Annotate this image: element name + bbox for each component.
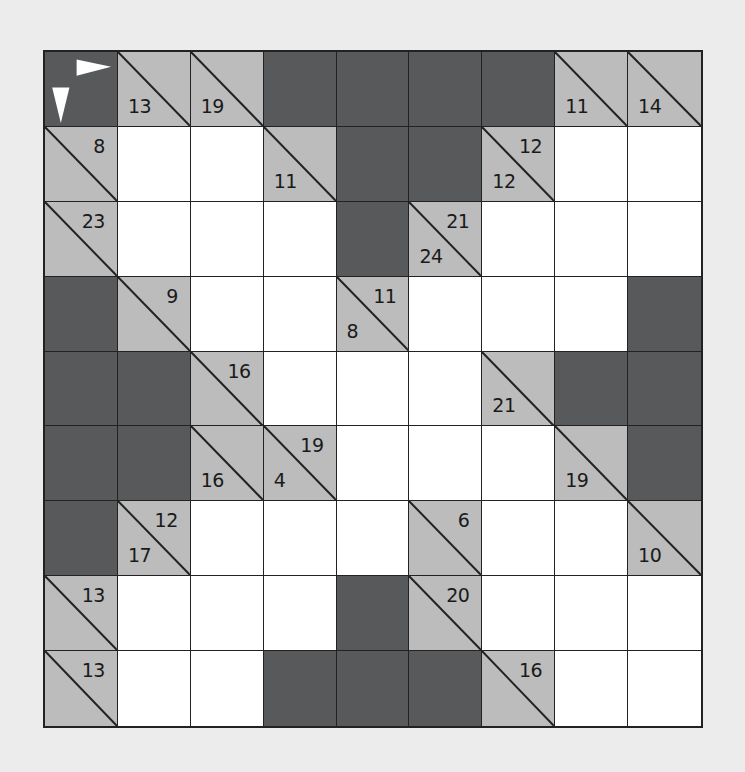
- entry-value: [482, 202, 554, 276]
- entry-cell[interactable]: [191, 277, 264, 352]
- entry-value: [264, 501, 336, 575]
- entry-cell[interactable]: [191, 127, 264, 202]
- entry-value: [555, 501, 627, 575]
- entry-cell[interactable]: [482, 501, 555, 576]
- clue-cell: 16: [191, 426, 264, 501]
- entry-cell[interactable]: [482, 202, 555, 277]
- entry-cell[interactable]: [337, 426, 410, 501]
- entry-cell[interactable]: [118, 576, 191, 651]
- block-cell: [628, 426, 701, 501]
- block-cell: [45, 277, 118, 352]
- across-clue-sum: 23: [82, 212, 105, 231]
- entry-value: [191, 277, 263, 351]
- block-cell: [337, 202, 410, 277]
- entry-cell[interactable]: [264, 352, 337, 427]
- across-clue-sum: 21: [446, 212, 469, 231]
- block-cell: [628, 352, 701, 427]
- diagonal-divider: [118, 277, 190, 351]
- clue-cell: 8: [45, 127, 118, 202]
- entry-value: [628, 127, 701, 201]
- entry-value: [191, 127, 263, 201]
- entry-value: [628, 202, 701, 276]
- across-clue-sum: 13: [82, 586, 105, 605]
- entry-cell[interactable]: [555, 127, 628, 202]
- entry-value: [264, 202, 336, 276]
- clue-cell: 13: [45, 576, 118, 651]
- entry-value: [118, 576, 190, 650]
- entry-cell[interactable]: [409, 352, 482, 427]
- kakuro-board: 1319111481112122321249118162116194191217…: [43, 50, 703, 728]
- block-cell: [264, 651, 337, 726]
- entry-cell[interactable]: [191, 651, 264, 726]
- entry-cell[interactable]: [264, 202, 337, 277]
- across-clue-sum: 13: [82, 661, 105, 680]
- entry-cell[interactable]: [191, 576, 264, 651]
- block-cell: [482, 52, 555, 127]
- entry-cell[interactable]: [555, 651, 628, 726]
- block-cell: [118, 426, 191, 501]
- down-clue-sum: 12: [492, 172, 515, 191]
- entry-cell[interactable]: [628, 202, 701, 277]
- down-arrow-icon: [52, 87, 69, 122]
- entry-cell[interactable]: [264, 576, 337, 651]
- entry-cell[interactable]: [409, 426, 482, 501]
- block-cell: [118, 352, 191, 427]
- clue-cell: 23: [45, 202, 118, 277]
- down-clue-sum: 4: [274, 471, 286, 490]
- entry-cell[interactable]: [191, 501, 264, 576]
- clue-cell: 10: [628, 501, 701, 576]
- across-clue-sum: 12: [519, 137, 542, 156]
- entry-value: [555, 202, 627, 276]
- entry-value: [264, 576, 336, 650]
- across-clue-sum: 9: [166, 287, 178, 306]
- entry-cell[interactable]: [482, 426, 555, 501]
- entry-value: [555, 576, 627, 650]
- entry-cell[interactable]: [191, 202, 264, 277]
- entry-cell[interactable]: [264, 277, 337, 352]
- entry-cell[interactable]: [118, 127, 191, 202]
- entry-cell[interactable]: [555, 277, 628, 352]
- across-clue-sum: 16: [227, 362, 250, 381]
- entry-value: [337, 426, 409, 500]
- entry-value: [337, 501, 409, 575]
- entry-cell[interactable]: [482, 576, 555, 651]
- entry-cell[interactable]: [628, 127, 701, 202]
- entry-cell[interactable]: [409, 277, 482, 352]
- entry-cell[interactable]: [118, 202, 191, 277]
- entry-cell[interactable]: [337, 501, 410, 576]
- entry-cell[interactable]: [482, 277, 555, 352]
- down-clue-sum: 21: [492, 396, 515, 415]
- entry-cell[interactable]: [337, 352, 410, 427]
- down-clue-sum: 19: [565, 471, 588, 490]
- down-clue-sum: 13: [128, 97, 151, 116]
- clue-cell: 19: [555, 426, 628, 501]
- clue-cell: 11: [264, 127, 337, 202]
- clue-cell: 13: [118, 52, 191, 127]
- entry-value: [409, 352, 481, 426]
- block-cell: [337, 52, 410, 127]
- block-cell: [337, 651, 410, 726]
- block-cell: [45, 352, 118, 427]
- across-clue-sum: 6: [458, 511, 470, 530]
- entry-cell[interactable]: [555, 576, 628, 651]
- diagonal-divider: [409, 501, 481, 575]
- down-clue-sum: 8: [347, 322, 359, 341]
- entry-cell[interactable]: [555, 202, 628, 277]
- entry-cell[interactable]: [628, 651, 701, 726]
- across-and-down-arrows-icon: [45, 52, 117, 126]
- entry-cell[interactable]: [555, 501, 628, 576]
- clue-cell: 1212: [482, 127, 555, 202]
- clue-cell: 20: [409, 576, 482, 651]
- entry-value: [409, 277, 481, 351]
- across-arrow-icon: [77, 59, 112, 75]
- corner-legend-cell: [45, 52, 118, 127]
- entry-cell[interactable]: [628, 576, 701, 651]
- clue-cell: 21: [482, 352, 555, 427]
- block-cell: [45, 501, 118, 576]
- clue-cell: 194: [264, 426, 337, 501]
- entry-value: [555, 127, 627, 201]
- clue-cell: 6: [409, 501, 482, 576]
- across-clue-sum: 11: [373, 287, 396, 306]
- entry-cell[interactable]: [118, 651, 191, 726]
- entry-cell[interactable]: [264, 501, 337, 576]
